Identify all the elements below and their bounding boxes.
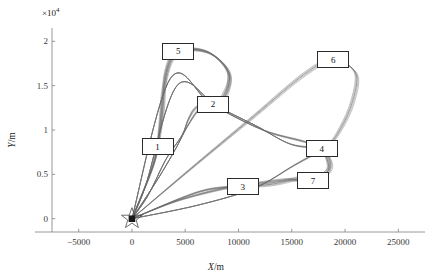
- y-axis-exponent-label: ×104: [42, 6, 60, 18]
- waypoint-box-7[interactable]: 7: [297, 172, 329, 189]
- waypoint-label: 5: [176, 46, 181, 56]
- trajectory-line: [132, 49, 230, 219]
- trajectory-line: [132, 51, 231, 219]
- origin-star-marker: [121, 208, 142, 228]
- waypoint-box-5[interactable]: 5: [162, 43, 194, 60]
- axis-lines: [35, 28, 425, 232]
- waypoint-label: 6: [331, 55, 336, 65]
- waypoint-label: 4: [319, 144, 324, 154]
- trajectory-line: [132, 49, 229, 219]
- y-tick-label: 0: [22, 214, 48, 224]
- trajectory-line: [132, 50, 231, 219]
- plot-canvas: [0, 0, 432, 280]
- x-tick-label: 10000: [227, 237, 250, 247]
- x-tick-label: −5000: [67, 237, 90, 247]
- origin-hub-marker: [129, 215, 136, 222]
- y-tick-label: 0.5: [22, 169, 48, 179]
- x-tick-label: 20000: [334, 237, 357, 247]
- y-tick-label: 2: [22, 36, 48, 46]
- waypoint-box-6[interactable]: 6: [317, 51, 349, 68]
- waypoint-label: 7: [311, 176, 316, 186]
- trajectory-line: [132, 48, 229, 218]
- waypoint-label: 2: [211, 99, 216, 109]
- trajectory-line: [132, 51, 231, 219]
- x-tick-label: 5000: [176, 237, 194, 247]
- x-axis-title: X/m: [208, 262, 224, 272]
- x-tick-label: 0: [130, 237, 135, 247]
- x-tick-label: 25000: [387, 237, 410, 247]
- trajectory-line: [132, 50, 231, 219]
- waypoint-box-3[interactable]: 3: [227, 178, 259, 195]
- trajectory-line: [132, 49, 230, 219]
- waypoint-label: 3: [241, 182, 246, 192]
- waypoint-label: 1: [155, 142, 160, 152]
- y-axis-title: Y/m: [7, 132, 17, 147]
- waypoint-box-2[interactable]: 2: [197, 96, 229, 113]
- tick-marks: [52, 41, 398, 232]
- y-tick-label: 1: [22, 125, 48, 135]
- waypoint-box-1[interactable]: 1: [142, 138, 174, 155]
- trajectory-figure: ×104 −5000050001000015000200002500000.51…: [0, 0, 432, 280]
- trajectory-line: [132, 48, 228, 219]
- x-tick-label: 15000: [281, 237, 304, 247]
- waypoint-box-4[interactable]: 4: [306, 140, 338, 157]
- y-tick-label: 1.5: [22, 81, 48, 91]
